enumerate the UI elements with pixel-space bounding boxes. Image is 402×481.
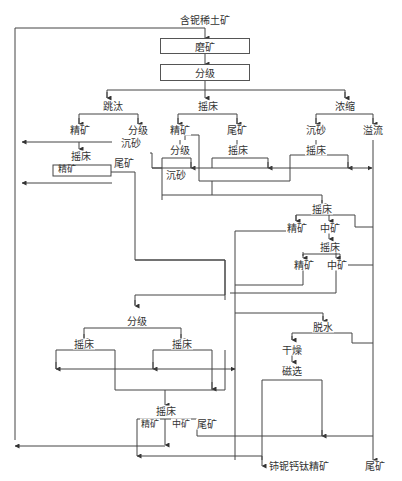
table-tail-table-label: 摇床 (227, 145, 249, 156)
table-conc-sand-label: 沉砂 (165, 170, 187, 181)
tailings-label: 尾矿 (364, 461, 386, 472)
jig-table-conc-label: 精矿 (57, 164, 77, 175)
final-tail-label: 尾矿 (196, 419, 218, 430)
product-label: 铈铌钙钛精矿 (268, 461, 330, 472)
thicken-sand-table-label: 摇床 (305, 145, 327, 156)
jig-table-label: 摇床 (70, 151, 92, 162)
table2-mid-label: 中矿 (319, 223, 341, 234)
grinding-box: 磨矿 (160, 38, 250, 54)
lower-classify-label: 分级 (126, 316, 148, 327)
jig-label: 跳汰 (102, 101, 124, 112)
thicken-overflow-label: 溢流 (362, 125, 384, 136)
final-conc-label: 精矿 (140, 419, 160, 430)
table-main-label: 摇床 (197, 101, 219, 112)
flowsheet-diagram: 含铌稀土矿 磨矿 分级 跳汰 摇床 浓缩 精矿 分级 沉砂 摇床 精矿 尾矿 精… (0, 0, 402, 481)
table-tail-label: 尾矿 (226, 125, 248, 136)
dewater-label: 脱水 (312, 322, 334, 333)
jig-classify-label: 分级 (127, 125, 149, 136)
jig-sand-label: 沉砂 (120, 138, 142, 149)
table-conc-classify-label: 分级 (169, 145, 191, 156)
jig-table-tail-label: 尾矿 (113, 158, 135, 169)
magnetic-label: 磁选 (281, 366, 303, 377)
table3-conc-label: 精矿 (293, 260, 315, 271)
dry-label: 干燥 (281, 345, 303, 356)
table3-mid-label: 中矿 (326, 260, 348, 271)
classification-box: 分级 (160, 64, 250, 81)
table2-label: 摇床 (311, 204, 333, 215)
final-mid-label: 中矿 (171, 419, 191, 430)
lower-table-right-label: 摇床 (171, 339, 193, 350)
thicken-label: 浓缩 (334, 101, 356, 112)
thicken-sand-label: 沉砂 (305, 125, 327, 136)
final-table-label: 摇床 (155, 406, 177, 417)
feed-label: 含铌稀土矿 (179, 15, 231, 26)
lower-table-left-label: 摇床 (73, 339, 95, 350)
table3-label: 摇床 (319, 242, 341, 253)
jig-conc-label: 精矿 (69, 125, 91, 136)
table-conc-label: 精矿 (169, 125, 191, 136)
table2-conc-label: 精矿 (286, 223, 308, 234)
